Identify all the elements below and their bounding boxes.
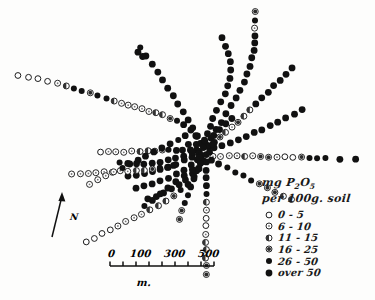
data-point: [178, 187, 184, 193]
data-point: [157, 190, 164, 197]
data-point: [217, 134, 223, 140]
legend-header-sub2: 5: [309, 182, 315, 191]
data-point: [222, 90, 229, 97]
data-point: [248, 177, 254, 183]
transect: [135, 49, 146, 60]
data-point: [224, 82, 231, 89]
data-point: [227, 58, 234, 65]
data-point: [299, 106, 306, 113]
legend-header-line1: mg P2O5: [261, 176, 370, 192]
data-point: [222, 110, 229, 117]
data-point: [192, 132, 199, 139]
legend-symbol-large-filled-circle: [262, 268, 276, 278]
data-point: [170, 162, 177, 169]
legend-header-line2: per 100g. soil: [261, 192, 370, 206]
data-point: [336, 156, 343, 163]
data-point: [99, 231, 105, 237]
data-point: [200, 144, 207, 151]
data-point: [190, 175, 197, 182]
data-point: [132, 104, 138, 110]
scale-bar-label: 100: [130, 248, 153, 259]
data-point: [233, 95, 240, 102]
data-point: [196, 154, 203, 161]
legend-label: over 50: [277, 267, 321, 278]
north-arrow-graphic: [52, 192, 65, 237]
legend-label: 16 - 25: [277, 244, 319, 255]
data-point: [55, 80, 61, 86]
data-point: [234, 153, 240, 159]
data-point: [135, 157, 142, 164]
data-point: [203, 174, 210, 181]
data-point: [283, 71, 290, 78]
data-point: [126, 161, 133, 168]
data-point: [185, 141, 192, 148]
data-point: [203, 199, 209, 205]
legend-row: 16 - 25: [262, 244, 370, 256]
north-arrow-label: N: [69, 212, 78, 222]
data-point: [182, 200, 188, 206]
data-point: [159, 77, 166, 84]
data-point: [282, 115, 289, 122]
data-point: [270, 82, 277, 89]
data-point: [83, 239, 89, 245]
data-point: [173, 171, 180, 178]
data-point: [203, 207, 209, 213]
data-point: [242, 153, 248, 159]
data-point: [252, 9, 258, 15]
scale-bar-unit: m.: [75, 277, 212, 288]
data-point: [252, 33, 259, 40]
scale-bar-numbers: 0100300500: [81, 248, 212, 261]
data-point: [258, 154, 264, 160]
data-point: [85, 170, 91, 176]
data-point: [104, 96, 110, 102]
data-point: [131, 215, 137, 221]
data-point: [203, 239, 209, 245]
legend-header-prefix: mg P: [262, 176, 296, 189]
data-point: [185, 116, 192, 123]
data-point: [201, 137, 208, 144]
data-point: [322, 155, 328, 161]
data-point: [213, 107, 220, 114]
legend-class-list: 0 - 5 6 - 10: [262, 209, 370, 279]
data-point: [203, 159, 210, 166]
data-point: [247, 63, 254, 70]
data-point: [206, 149, 213, 156]
data-point: [240, 173, 246, 179]
data-point: [216, 126, 223, 133]
data-point: [266, 154, 272, 160]
data-point: [215, 161, 222, 168]
legend-row: 6 - 10: [262, 220, 370, 232]
data-point: [87, 90, 93, 96]
data-point: [45, 78, 51, 84]
data-point: [224, 165, 230, 171]
data-point: [171, 193, 177, 199]
data-point: [170, 92, 177, 99]
data-point: [226, 153, 232, 159]
data-point: [115, 223, 121, 229]
data-point: [117, 159, 123, 165]
data-point: [274, 119, 281, 126]
data-point: [258, 94, 265, 101]
data-point: [252, 100, 259, 107]
data-point: [217, 98, 224, 105]
data-point: [173, 147, 180, 154]
legend-label: 0 - 5: [277, 209, 304, 220]
data-point: [232, 169, 238, 175]
data-point: [123, 218, 129, 224]
legend-label: 6 - 10: [277, 221, 311, 232]
data-point: [165, 156, 172, 163]
data-point: [159, 112, 165, 118]
data-point: [105, 149, 111, 155]
data-point: [71, 85, 77, 91]
data-point: [251, 40, 258, 47]
data-point: [189, 124, 196, 131]
data-point: [146, 108, 152, 114]
legend-symbol-open-circle: [262, 210, 276, 220]
data-point: [248, 54, 255, 61]
data-point: [277, 77, 284, 84]
data-point: [172, 178, 179, 185]
data-point: [228, 102, 235, 109]
data-point: [120, 165, 126, 171]
data-point: [252, 25, 258, 31]
data-point: [121, 149, 127, 155]
